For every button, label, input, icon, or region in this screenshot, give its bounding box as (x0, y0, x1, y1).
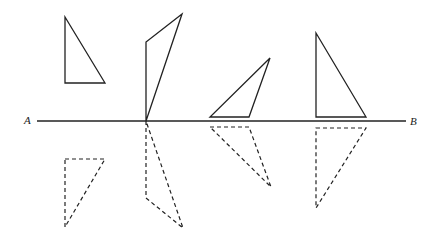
triangle-2-reflection (146, 121, 183, 228)
line-label-a: A (24, 115, 31, 126)
triangle-1-original (65, 17, 105, 83)
triangle-2-original (146, 14, 182, 121)
triangle-4-reflection (316, 128, 366, 208)
triangle-3-reflection (210, 127, 271, 187)
reflection-diagram (0, 0, 439, 242)
triangle-4-original (316, 33, 366, 117)
triangle-3-original (210, 58, 270, 117)
triangle-1-reflection (65, 159, 105, 227)
triangle-group-3 (210, 58, 271, 187)
triangle-group-1 (65, 17, 105, 227)
line-label-b: B (410, 116, 417, 127)
